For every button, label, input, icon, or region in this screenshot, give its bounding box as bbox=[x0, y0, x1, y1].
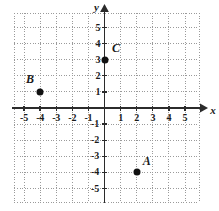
axis-lines bbox=[12, 4, 208, 203]
y-tick-label: 5 bbox=[96, 23, 101, 33]
y-tick-label: 1 bbox=[96, 87, 101, 97]
x-tick-label: -3 bbox=[52, 113, 60, 123]
coordinate-grid-svg bbox=[0, 0, 219, 211]
y-tick-label: -4 bbox=[91, 167, 99, 177]
y-tick-label: 2 bbox=[96, 71, 101, 81]
coordinate-plane-figure: -5-4-3-2-11234554321-1-2-3-4-5 xy ABC bbox=[0, 0, 219, 211]
x-axis-label: x bbox=[210, 105, 216, 116]
y-tick-label: 3 bbox=[96, 55, 101, 65]
y-tick-label: -1 bbox=[91, 119, 99, 129]
data-point bbox=[37, 88, 44, 95]
x-axis-arrowhead bbox=[200, 104, 208, 113]
data-point-label: B bbox=[26, 73, 34, 85]
x-tick-label: 5 bbox=[183, 113, 188, 123]
y-tick-label: -5 bbox=[91, 184, 99, 194]
y-tick-label: -2 bbox=[91, 135, 99, 145]
data-point bbox=[101, 56, 108, 63]
y-tick-label: 4 bbox=[96, 39, 101, 49]
x-tick-label: -4 bbox=[36, 113, 44, 123]
data-point-label: C bbox=[112, 42, 120, 54]
x-tick-label: 1 bbox=[118, 113, 123, 123]
x-tick-label: -2 bbox=[68, 113, 76, 123]
y-axis-arrowhead bbox=[100, 4, 109, 12]
data-point bbox=[133, 169, 140, 176]
x-tick-label: 2 bbox=[134, 113, 139, 123]
data-point-label: A bbox=[143, 155, 151, 167]
y-tick-label: -3 bbox=[91, 151, 99, 161]
y-axis-label: y bbox=[94, 2, 99, 13]
x-tick-label: 4 bbox=[166, 113, 171, 123]
x-tick-label: 3 bbox=[150, 113, 155, 123]
x-tick-label: -5 bbox=[20, 113, 28, 123]
